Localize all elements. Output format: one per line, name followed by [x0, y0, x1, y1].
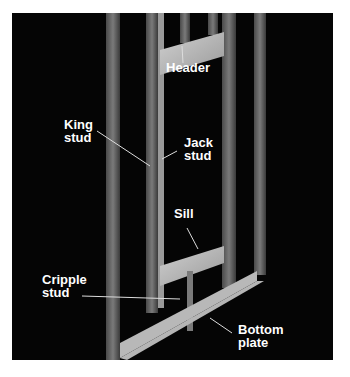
right-stud	[254, 13, 266, 275]
label-jack-stud-line2: stud	[184, 149, 211, 163]
label-cripple-stud-line2: stud	[42, 286, 69, 300]
label-sill: Sill	[174, 207, 194, 221]
label-king-stud-line2: stud	[64, 131, 91, 145]
label-header: Header	[166, 61, 210, 75]
left-stud	[106, 13, 120, 360]
label-bottom-plate-line2: plate	[238, 336, 268, 350]
right-king-stud	[222, 13, 236, 288]
king-stud	[146, 13, 158, 313]
